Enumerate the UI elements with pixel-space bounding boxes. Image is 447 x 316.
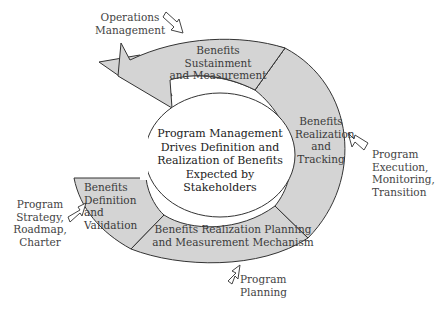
segment-realization-label: Benefits Realization and Tracking [295,115,347,165]
input-planning-label: Program Planning [240,273,300,298]
segment-definition-label: Benefits Definition and Validation [84,181,134,231]
input-strategy-label: Program Strategy, Roadmap, Charter [10,198,70,248]
center-statement: Program Management Drives Definition and… [150,127,290,195]
hollow-arrow-icon [228,265,240,284]
benefits-lifecycle-diagram: Benefits Sustainment and Measurement Ben… [0,0,447,316]
segment-planning-label: Benefits Realization Planning and Measur… [148,223,318,248]
segment-sustainment-label: Benefits Sustainment and Measurement [168,44,268,82]
input-execution-label: Program Execution, Monitoring, Transitio… [372,148,442,198]
input-operations-label: Operations Management [95,11,165,36]
hollow-arrow-icon [163,12,183,33]
